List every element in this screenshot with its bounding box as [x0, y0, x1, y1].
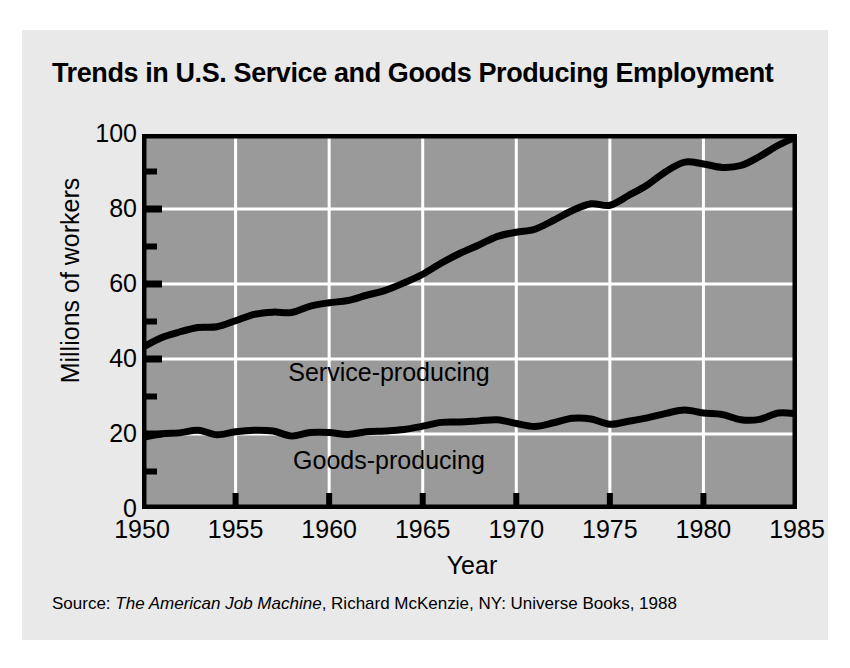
y-tick-label: 80 — [47, 194, 137, 223]
y-tick-label: 20 — [47, 419, 137, 448]
x-tick-label: 1965 — [378, 515, 468, 544]
source-book-title: The American Job Machine — [115, 594, 321, 613]
series-label: Goods-producing — [293, 446, 485, 475]
x-tick-label: 1980 — [658, 515, 748, 544]
x-tick-label: 1970 — [471, 515, 561, 544]
chart-title: Trends in U.S. Service and Goods Produci… — [52, 58, 802, 89]
x-tick-label: 1975 — [565, 515, 655, 544]
source-rest: , Richard McKenzie, NY: Universe Books, … — [322, 594, 677, 613]
y-tick-label: 100 — [47, 119, 137, 148]
figure-card: Trends in U.S. Service and Goods Produci… — [22, 30, 828, 640]
series-label: Service-producing — [288, 358, 490, 387]
plot-area: 020406080100 195019551960196519701975198… — [142, 134, 797, 509]
x-tick-label: 1985 — [752, 515, 842, 544]
source-caption: Source: The American Job Machine, Richar… — [52, 594, 677, 614]
source-prefix: Source: — [52, 594, 115, 613]
x-tick-label: 1955 — [191, 515, 281, 544]
x-tick-label: 1950 — [97, 515, 187, 544]
x-axis-label: Year — [142, 551, 802, 580]
y-tick-label: 40 — [47, 344, 137, 373]
x-tick-label: 1960 — [284, 515, 374, 544]
y-tick-label: 60 — [47, 269, 137, 298]
